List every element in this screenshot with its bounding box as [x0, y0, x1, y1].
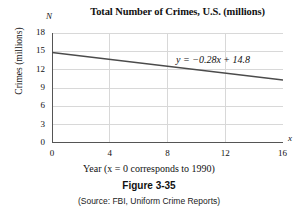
y-tick-label: 12	[23, 64, 45, 74]
equation-annotation: y = −0.28x + 14.8	[176, 54, 250, 65]
plot-area	[52, 33, 283, 143]
x-tick-label: 4	[98, 148, 122, 158]
y-tick-label: 6	[23, 100, 45, 110]
x-tick-label: 12	[213, 148, 237, 158]
x-axis-variable-label: x	[288, 133, 292, 143]
x-tick-label: 8	[156, 148, 180, 158]
y-tick-label: 0	[23, 137, 45, 147]
figure-number-caption: Figure 3-35	[0, 180, 298, 191]
figure-source-caption: (Source: FBI, Uniform Crime Reports)	[0, 196, 298, 206]
figure-container: Total Number of Crimes, U.S. (millions) …	[0, 0, 298, 214]
y-tick-label: 3	[23, 119, 45, 129]
y-tick-label: 15	[23, 45, 45, 55]
y-axis-variable-label: N	[46, 11, 52, 21]
chart-title: Total Number of Crimes, U.S. (millions)	[60, 6, 295, 17]
y-tick-label: 9	[23, 82, 45, 92]
x-axis-caption: Year (x = 0 corresponds to 1990)	[0, 163, 298, 174]
chart-plot-svg	[52, 33, 283, 143]
y-tick-label: 18	[23, 27, 45, 37]
x-tick-label: 0	[40, 148, 64, 158]
x-tick-label: 16	[271, 148, 295, 158]
